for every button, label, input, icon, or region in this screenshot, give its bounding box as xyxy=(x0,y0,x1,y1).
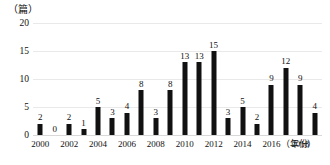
bar-value-label: 12 xyxy=(281,57,290,66)
bar-value-label: 3 xyxy=(110,108,115,117)
x-axis-tick-label: 2006 xyxy=(118,139,136,150)
bar xyxy=(226,118,231,135)
bar-slot: 4 xyxy=(308,23,322,135)
bar-slot: 9 xyxy=(264,23,278,135)
bar-slot: 8 xyxy=(134,23,148,135)
bar-series: 202153483813131535291294 xyxy=(33,23,322,135)
bar xyxy=(240,107,245,135)
plot-area: 202153483813131535291294 xyxy=(33,23,322,135)
bar xyxy=(153,118,158,135)
bar-value-label: 0 xyxy=(52,125,57,134)
bar-value-label: 3 xyxy=(154,108,159,117)
bar-slot: 9 xyxy=(293,23,307,135)
bar-value-label: 9 xyxy=(269,74,274,83)
bar-value-label: 1 xyxy=(81,119,86,128)
x-axis-tick-label: 2010 xyxy=(176,139,194,150)
bar-slot: 13 xyxy=(178,23,192,135)
bar-value-label: 13 xyxy=(195,52,204,61)
bar-value-label: 8 xyxy=(139,80,144,89)
bar-slot: 13 xyxy=(192,23,206,135)
bar-value-label: 5 xyxy=(240,97,245,106)
bar-value-label: 2 xyxy=(67,113,72,122)
bar-value-label: 4 xyxy=(313,102,318,111)
bar-slot: 4 xyxy=(120,23,134,135)
gridline xyxy=(33,135,322,136)
x-axis-tick-label: 2008 xyxy=(147,139,165,150)
bar xyxy=(269,85,274,135)
bar-value-label: 5 xyxy=(96,97,101,106)
y-axis-tick-label: 15 xyxy=(20,46,30,56)
x-axis-tick-label: 2000 xyxy=(31,139,49,150)
bar xyxy=(254,124,259,135)
bar xyxy=(182,62,187,135)
bar xyxy=(67,124,72,135)
bar-value-label: 13 xyxy=(180,52,189,61)
bar xyxy=(139,90,144,135)
x-axis-tick-labels: 2000200220042006200820102012201420162018 xyxy=(33,139,322,155)
bar xyxy=(110,118,115,135)
x-axis-tick-label: 2012 xyxy=(205,139,223,150)
bar-slot: 5 xyxy=(235,23,249,135)
bar xyxy=(38,124,43,135)
x-axis-title: （年份） xyxy=(281,139,316,150)
bar xyxy=(81,129,86,135)
bar-slot: 2 xyxy=(33,23,47,135)
bar-slot: 2 xyxy=(62,23,76,135)
bar-chart: （篇） 05101520 202153483813131535291294 20… xyxy=(0,0,330,165)
y-axis-tick-label: 10 xyxy=(20,74,30,84)
bar xyxy=(168,90,173,135)
x-axis-tick-label: 2016 xyxy=(262,139,280,150)
x-axis-tick-label: 2014 xyxy=(234,139,252,150)
bar-slot: 3 xyxy=(105,23,119,135)
bar-slot: 1 xyxy=(76,23,90,135)
bar-slot: 3 xyxy=(221,23,235,135)
bar xyxy=(96,107,101,135)
y-axis-tick-label: 20 xyxy=(20,18,30,28)
y-axis-tick-labels: 05101520 xyxy=(0,0,33,165)
bar xyxy=(124,113,129,135)
bar xyxy=(298,85,303,135)
bar xyxy=(312,113,317,135)
bar-slot: 8 xyxy=(163,23,177,135)
bar xyxy=(283,68,288,135)
bar-value-label: 3 xyxy=(226,108,231,117)
bar-value-label: 4 xyxy=(125,102,130,111)
bar-value-label: 2 xyxy=(255,113,260,122)
bar-slot: 3 xyxy=(149,23,163,135)
bar-value-label: 2 xyxy=(38,113,43,122)
bar-value-label: 8 xyxy=(168,80,173,89)
bar xyxy=(211,51,216,135)
bar-slot: 2 xyxy=(250,23,264,135)
x-axis-tick-label: 2002 xyxy=(60,139,78,150)
bar-slot: 15 xyxy=(206,23,220,135)
bar-slot: 12 xyxy=(279,23,293,135)
y-axis-tick-label: 0 xyxy=(24,130,29,140)
y-axis-tick-label: 5 xyxy=(24,102,29,112)
bar xyxy=(197,62,202,135)
bar-slot: 5 xyxy=(91,23,105,135)
x-axis-tick-label: 2004 xyxy=(89,139,107,150)
bar-value-label: 15 xyxy=(209,41,218,50)
bar-value-label: 9 xyxy=(298,74,303,83)
bar-slot: 0 xyxy=(47,23,61,135)
